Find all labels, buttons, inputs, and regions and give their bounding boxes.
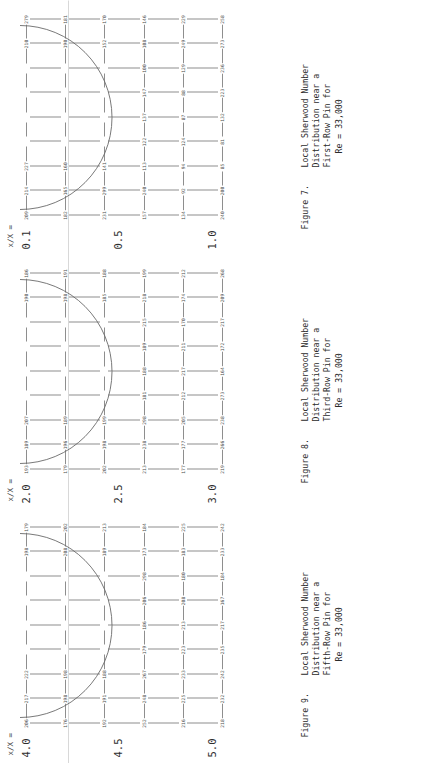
grid-value: 191 <box>63 268 68 278</box>
grid-value: 108 <box>141 39 146 49</box>
grid-line-horizontal <box>222 278 223 293</box>
grid-value: 181 <box>141 391 146 401</box>
grid-value: 207 <box>24 415 29 425</box>
grid-value: 189 <box>24 440 29 450</box>
grid-value: 141 <box>102 161 107 171</box>
grid-value: 164 <box>220 366 225 376</box>
grid-value: 209 <box>220 293 225 303</box>
grid-value: 184 <box>220 571 225 581</box>
grid-value: 198 <box>102 440 107 450</box>
grid-value: 184 <box>141 522 146 532</box>
grid-value: 199 <box>141 268 146 278</box>
grid-value: 81 <box>220 138 225 145</box>
figure-7-caption-line-4: Re = 33,000 <box>334 63 345 167</box>
figure-9-caption-line-4: Re = 33,000 <box>334 571 345 675</box>
grid-line-horizontal <box>222 704 223 719</box>
grid-value: 190 <box>24 293 29 303</box>
grid-value: 266 <box>220 440 225 450</box>
grid-line-horizontal <box>222 352 223 367</box>
grid-line-horizontal <box>222 24 223 39</box>
grid-value: 298 <box>141 415 146 425</box>
figure-9-tick-2: 5.0 <box>206 738 218 757</box>
grid-value: 205 <box>180 415 185 425</box>
grid-value: 198 <box>24 547 29 557</box>
grid-value: 206 <box>141 596 146 606</box>
grid-value: 189 <box>63 415 68 425</box>
grid-value: 249 <box>180 39 185 49</box>
grid-value: 179 <box>141 645 146 655</box>
figure-7-caption-line-1: Local Sherwood Number <box>300 63 311 167</box>
grid-value: 238 <box>141 440 146 450</box>
grid-value: 240 <box>220 210 225 220</box>
grid-line-horizontal <box>222 73 223 88</box>
grid-value: 177 <box>180 464 185 474</box>
grid-value: 198 <box>63 293 68 303</box>
grid-line-horizontal <box>222 606 223 621</box>
grid-line-horizontal <box>222 557 223 572</box>
grid-value: 258 <box>220 14 225 24</box>
figure-7-tick-0: 0.1 <box>20 230 32 249</box>
grid-value: 180 <box>180 571 185 581</box>
grid-value: 279 <box>24 14 29 24</box>
grid-value: 165 <box>63 186 68 196</box>
figure-9-caption-line-3: Fifth-Row Pin for <box>322 571 333 675</box>
figure-8-tick-1: 2.5 <box>112 484 124 503</box>
grid-line-horizontal <box>222 147 223 162</box>
grid-value: 147 <box>141 88 146 98</box>
grid-value: 235 <box>220 645 225 655</box>
grid-value: 160 <box>63 161 68 171</box>
grid-line-horizontal <box>222 532 223 547</box>
grid-line-horizontal <box>222 98 223 113</box>
grid-value: 188 <box>102 268 107 278</box>
figure-9-tick-1: 4.5 <box>112 738 124 757</box>
grid-value: 185 <box>102 293 107 303</box>
grid-value: 242 <box>220 669 225 679</box>
figure-8-caption-line-4: Re = 33,000 <box>334 317 345 421</box>
pin-outline-icon <box>26 273 222 469</box>
grid-line-horizontal <box>222 171 223 186</box>
grid-value: 233 <box>220 547 225 557</box>
grid-value: 191 <box>102 694 107 704</box>
grid-value: 186 <box>141 620 146 630</box>
grid-value: 190 <box>63 39 68 49</box>
grid-value: 206 <box>24 718 29 728</box>
grid-value: 85 <box>220 163 225 170</box>
grid-value: 122 <box>141 137 146 147</box>
figure-7-caption-line-2: Distribution near a <box>311 63 322 167</box>
grid-value: 217 <box>220 620 225 630</box>
grid-value: 219 <box>220 464 225 474</box>
figure-7-axis-title: x/X = <box>6 224 15 247</box>
grid-value: 182 <box>63 210 68 220</box>
grid-value: 87 <box>180 114 185 121</box>
grid-value: 200 <box>220 186 225 196</box>
grid-value: 240 <box>141 186 146 196</box>
grid-value: 157 <box>141 210 146 220</box>
grid-value: 134 <box>180 210 185 220</box>
grid-value: 212 <box>180 391 185 401</box>
grid-value: 222 <box>24 669 29 679</box>
grid-value: 174 <box>180 293 185 303</box>
grid-value: 189 <box>102 547 107 557</box>
figure-7-block: x/X = 0.1 0.5 1.0 2092142272102791821651… <box>0 1 444 255</box>
grid-value: 213 <box>141 464 146 474</box>
grid-value: 196 <box>63 440 68 450</box>
grid-value: 273 <box>220 39 225 49</box>
grid-value: 213 <box>102 522 107 532</box>
figure-8-caption-line-2: Distribution near a <box>311 317 322 421</box>
grid-value: 183 <box>180 547 185 557</box>
grid-value: 179 <box>24 522 29 532</box>
figure-7-caption-line-3: First-Row Pin for <box>322 63 333 167</box>
figure-9-caption-line-1: Local Sherwood Number <box>300 571 311 675</box>
grid-value: 170 <box>102 14 107 24</box>
grid-value: 298 <box>141 571 146 581</box>
grid-value: 216 <box>180 718 185 728</box>
grid-value: 94 <box>180 163 185 170</box>
grid-value: 218 <box>141 293 146 303</box>
grid-value: 225 <box>180 694 185 704</box>
figure-9-block: x/X = 4.0 4.5 5.0 2062172221981791761981… <box>0 509 444 763</box>
figure-8-caption-label: Figure 8. <box>300 439 311 483</box>
grid-line-horizontal <box>222 196 223 211</box>
figure-7-tick-2: 1.0 <box>206 230 218 249</box>
figure-9-caption-line-2: Distribution near a <box>311 571 322 675</box>
grid-value: 113 <box>141 161 146 171</box>
